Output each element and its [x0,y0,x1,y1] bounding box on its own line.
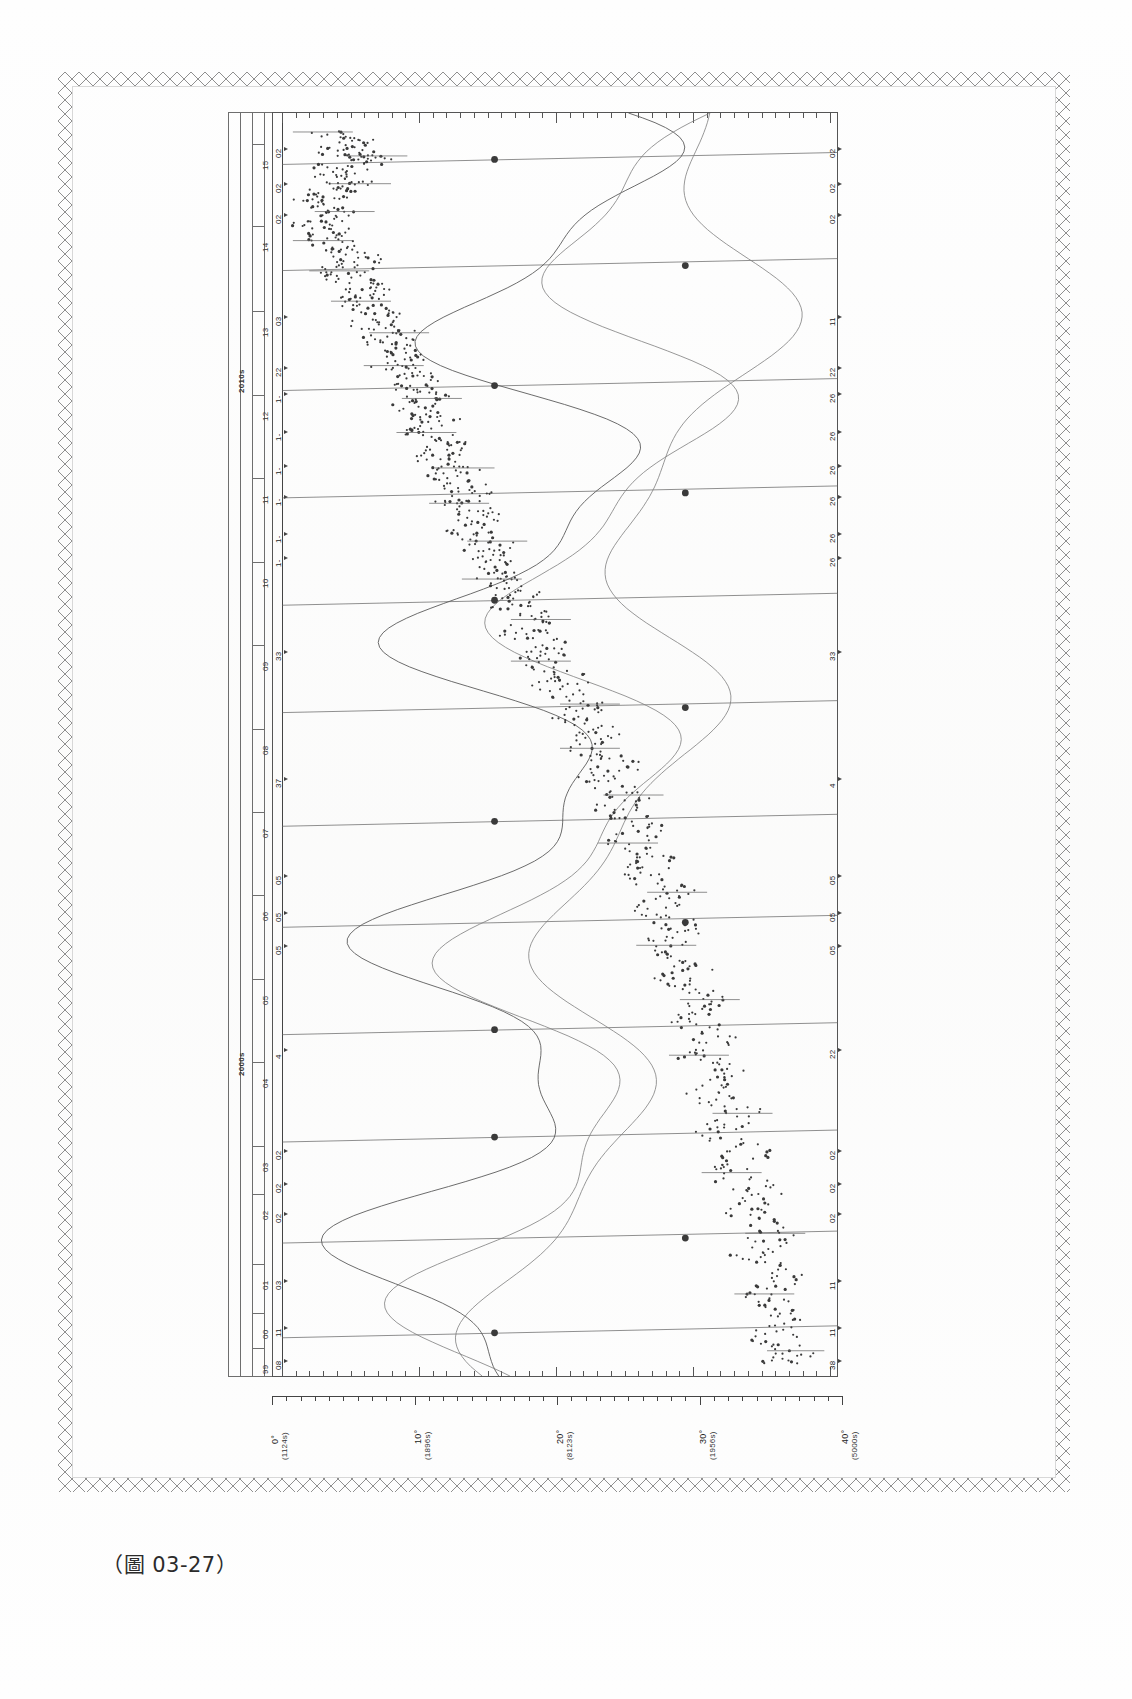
scatter-dot [688,1005,690,1007]
scatter-dot [341,220,343,222]
scatter-dot [390,323,393,326]
scatter-dot [351,145,354,148]
scatter-dot [335,234,337,236]
event-marker-5 [682,704,689,711]
scatter-dot [368,328,370,330]
scatter-dot [545,621,547,623]
left-ann-18: 02 [274,1183,283,1192]
year-label-11: 11 [261,495,270,504]
scatter-dot [672,977,675,980]
scatter-dot [419,371,421,373]
scatter-dot [735,1146,737,1148]
scatter-dot [391,343,393,345]
scatter-dot [676,1021,678,1023]
scatter-dot [723,1073,725,1075]
scatter-dot [722,1177,724,1179]
scatter-dot [800,1354,802,1356]
scatter-dot [683,1055,686,1058]
scatter-dot [631,792,633,794]
scatter-dot [723,1126,725,1128]
scatter-dot [729,1035,731,1037]
scatter-dot [672,856,675,859]
scatter-dot [639,872,641,874]
scatter-dot [667,928,670,931]
scatter-dot [695,1088,697,1090]
scatter-dot [457,513,460,516]
scatter-dot [637,830,640,833]
year-tick-11 [252,478,264,479]
scatter-dot [777,1315,779,1317]
scatter-dot [443,488,445,490]
right-ann-arrow-14 [838,911,842,915]
scatter-dot [750,1208,753,1211]
value-axis-tick-38 [814,1396,815,1401]
scatter-dot [777,1268,779,1270]
scatter-dot [689,1020,691,1022]
scatter-dot [699,1102,701,1104]
right-ann-12: 4 [828,783,837,788]
scatter-dot [457,487,459,489]
scatter-dot [693,889,695,891]
scatter-dot [383,288,385,290]
scatter-dot [706,994,709,997]
scatter-dot [758,1111,760,1113]
right-ann-arrow-0 [838,147,842,151]
scatter-dot [648,939,650,941]
scatter-dot [709,1079,711,1081]
scatter-dot [790,1360,793,1363]
left-ann-arrow-3 [284,315,288,319]
scatter-dot [321,153,324,156]
scatter-dot [372,139,374,141]
year-label-04: 04 [261,1079,270,1088]
scatter-dot [549,690,551,692]
scatter-dot [416,455,418,457]
scatter-dot [332,231,335,234]
scatter-dot [309,189,311,191]
scatter-dot [657,882,659,884]
scatter-dot [608,796,611,799]
scatter-dot [451,452,454,455]
scatter-dot [754,1240,756,1242]
scatter-dot [321,266,323,268]
scatter-dot [610,737,612,739]
scatter-dot [677,1057,680,1060]
scanned-page: 2010s2000s 15141312111009080706050403020… [0,0,1132,1699]
scatter-dot [746,1106,748,1108]
figure-chart: 2010s2000s 15141312111009080706050403020… [228,112,838,1377]
scatter-dot [519,614,521,616]
scatter-dot [673,965,675,967]
wave-curves [321,113,802,1376]
scatter-dot [411,399,414,402]
value-axis-label-0: 0° [270,1435,280,1444]
scatter-dot [512,597,514,599]
scatter-dot [504,571,507,574]
scatter-dot [744,1200,746,1202]
right-ann-arrow-21 [838,1326,842,1330]
scatter-dot [568,706,570,708]
scatter-dot [342,260,344,262]
scatter-dot [696,1052,698,1054]
era-rail-inner [240,112,241,1377]
value-axis-tick-11 [429,1396,430,1401]
right-ann-arrow-18 [838,1182,842,1186]
scatter-dot [454,461,456,463]
scatter-dot [717,1028,719,1030]
scatter-dot [684,930,686,932]
scatter-dot [370,159,372,161]
scatter-dot [384,350,386,352]
scatter-dot [575,739,577,741]
scatter-dot [409,357,411,359]
scatter-dot [457,519,459,521]
scatter-dot [694,923,697,926]
scatter-dot [356,305,358,307]
scatter-dot [636,856,638,858]
scatter-dot [714,1166,716,1168]
scatter-dot [530,651,532,653]
scatter-dot [420,454,422,456]
scatter-dot [345,253,347,255]
scatter-dot [293,222,295,224]
scatter-dot [695,1023,697,1025]
left-ann-5: 1- [274,396,283,404]
scatter-dot [365,160,368,163]
scatter-dot [654,949,656,951]
